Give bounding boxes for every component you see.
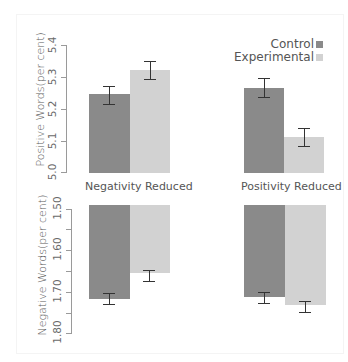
error-bar <box>304 128 305 146</box>
legend-control-swatch <box>316 41 323 48</box>
legend-control-label: Control <box>271 37 314 51</box>
bar-top-negativity-control <box>89 94 130 173</box>
bottom-y-axis <box>71 209 72 334</box>
error-bar <box>149 270 150 281</box>
bar-top-positivity-control <box>244 88 284 173</box>
top-tick-label: 5.4 <box>46 33 58 57</box>
error-bar <box>264 78 265 97</box>
top-y-axis <box>66 45 67 173</box>
bar-bottom-negativity-control <box>89 205 130 299</box>
top-tick-label: 5.0 <box>46 160 58 184</box>
group-label-positivity: Positivity Reduced <box>241 180 342 193</box>
error-cap <box>298 146 310 147</box>
top-tick <box>61 45 66 46</box>
bottom-tick <box>66 229 71 230</box>
error-bar <box>109 293 110 304</box>
top-tick-label: 5.1 <box>46 129 58 153</box>
error-cap <box>258 78 270 79</box>
top-y-axis-label: Positive Words(per cent) <box>34 47 47 167</box>
error-cap <box>103 86 115 87</box>
bottom-tick <box>66 271 71 272</box>
error-bar <box>109 86 110 104</box>
bar-top-negativity-experimental <box>130 70 170 173</box>
error-cap <box>143 281 155 282</box>
error-cap <box>103 304 115 305</box>
top-tick <box>61 172 66 173</box>
legend-experimental-label: Experimental <box>234 50 314 64</box>
bottom-tick <box>66 292 71 293</box>
legend-experimental-swatch <box>316 54 323 61</box>
bottom-tick-label: 1.60 <box>51 234 63 264</box>
error-cap <box>103 293 115 294</box>
bottom-y-axis-label: Negative Words(per cent) <box>36 208 49 336</box>
top-tick-label: 5.3 <box>46 65 58 89</box>
bottom-tick-label: 1.50 <box>51 193 63 223</box>
error-cap <box>299 312 311 313</box>
top-tick <box>61 109 66 110</box>
error-cap <box>298 128 310 129</box>
error-bar <box>264 292 265 303</box>
error-cap <box>103 104 115 105</box>
error-bar <box>150 61 151 79</box>
error-cap <box>144 61 156 62</box>
bottom-tick-label: 1.80 <box>51 317 63 347</box>
error-cap <box>144 79 156 80</box>
error-cap <box>299 301 311 302</box>
bar-bottom-positivity-experimental <box>285 205 326 305</box>
error-cap <box>258 292 270 293</box>
top-tick <box>61 141 66 142</box>
group-label-negativity: Negativity Reduced <box>85 180 193 193</box>
bottom-tick <box>66 250 71 251</box>
error-cap <box>258 303 270 304</box>
top-tick <box>61 77 66 78</box>
bar-bottom-negativity-experimental <box>130 205 170 273</box>
error-cap <box>143 270 155 271</box>
bottom-tick-label: 1.70 <box>51 276 63 306</box>
bar-bottom-positivity-control <box>244 205 285 297</box>
error-bar <box>305 301 306 312</box>
bottom-tick <box>66 333 71 334</box>
error-cap <box>258 97 270 98</box>
bottom-tick <box>66 209 71 210</box>
top-tick-label: 5.2 <box>46 97 58 121</box>
bottom-tick <box>66 313 71 314</box>
